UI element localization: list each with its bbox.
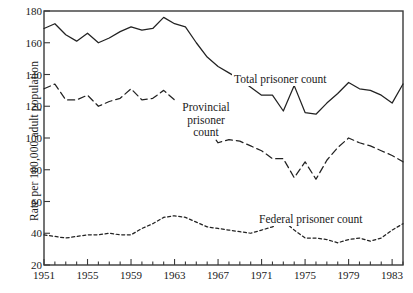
series-label-provincial: Provincial prisoner count — [172, 101, 240, 139]
series-line-total — [44, 17, 403, 114]
chart-figure: Rate per 100,000 adult population 204060… — [0, 0, 413, 293]
series-label-provincial-line3: count — [174, 126, 238, 139]
plot-area — [0, 0, 413, 293]
series-label-federal: Federal prisoner count — [257, 213, 364, 226]
series-label-provincial-line1: Provincial — [174, 101, 238, 114]
series-label-provincial-line2: prisoner — [174, 114, 238, 127]
series-label-total: Total prisoner count — [232, 73, 328, 86]
